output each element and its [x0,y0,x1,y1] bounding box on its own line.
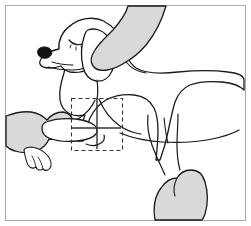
dog-examination-illustration: Line drawing of a dog being examined by … [0,0,251,226]
figure-root: Line drawing of a dog being examined by … [0,0,251,226]
dog-nose [38,47,52,58]
dog-foreleg-held [42,119,97,142]
